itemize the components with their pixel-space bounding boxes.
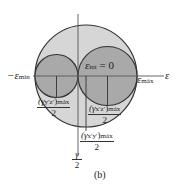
eps-int-value: = 0 xyxy=(97,59,114,71)
eps-min-symbol: −ε xyxy=(7,69,19,81)
frac3-den: 2 xyxy=(80,142,114,152)
frac2-den: 2 xyxy=(88,115,121,125)
eps-max-subscript: máx xyxy=(141,77,153,85)
frac1-den: 2 xyxy=(37,108,70,118)
frac3-sub2: máx xyxy=(101,132,113,140)
mohr-circle-diagram xyxy=(0,0,184,188)
eps-min-label: −εmín xyxy=(7,70,30,81)
gamma-xy-max-half-label: (γx′y′)máx 2 xyxy=(80,131,114,152)
gamma-xz-max-half-label: (γx′z′)máx 2 xyxy=(88,104,121,125)
frac2-sub2: máx xyxy=(108,105,120,113)
epsilon-axis-label: ε xyxy=(165,70,169,81)
gamma-axis-den: 2 xyxy=(72,160,82,170)
eps-int-subscript: int xyxy=(89,63,96,71)
frac3-sub1: x′y′ xyxy=(88,132,98,140)
gamma-half-axis-label: γ 2 xyxy=(72,150,82,170)
frac2-sub1: x′z′ xyxy=(96,105,106,113)
eps-int-label: εint = 0 xyxy=(85,60,114,71)
eps-min-subscript: mín xyxy=(19,73,30,81)
gamma-yz-max-half-label: (γy′z′)máx 2 xyxy=(37,97,70,118)
figure-caption: (b) xyxy=(94,170,106,180)
frac1-sub2: máx xyxy=(57,98,69,106)
gamma-axis-num: γ xyxy=(72,150,82,160)
eps-max-label: εmáx xyxy=(137,74,153,85)
frac1-sub1: y′z′ xyxy=(45,98,55,106)
